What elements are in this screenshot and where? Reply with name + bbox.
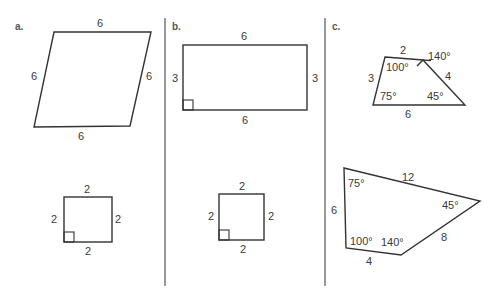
side-label: 2 <box>268 211 274 222</box>
side-label: 6 <box>242 115 248 126</box>
angle-label: 75° <box>348 178 365 189</box>
side-label: 6 <box>97 18 103 29</box>
side-label: 2 <box>208 211 214 222</box>
side-label: 3 <box>368 73 374 84</box>
side-label: 2 <box>239 181 245 192</box>
side-label: 3 <box>312 73 318 84</box>
side-label: 2 <box>51 214 57 225</box>
side-label: 6 <box>331 205 337 216</box>
side-label: 2 <box>240 244 246 255</box>
exterior-angle-tick <box>417 60 423 66</box>
panel-label-c: c. <box>332 22 340 32</box>
angle-label: 100° <box>350 236 373 247</box>
angle-label: 140° <box>428 51 451 62</box>
side-label: 6 <box>31 71 37 82</box>
angle-label: 75° <box>380 91 397 102</box>
diagram-canvas <box>0 0 500 302</box>
side-label: 2 <box>115 214 121 225</box>
angle-label: 100° <box>386 62 409 73</box>
parallelogram-shape <box>34 32 151 127</box>
side-label: 4 <box>445 71 451 82</box>
right-angle-marker-b <box>219 230 229 240</box>
rectangle-shape <box>183 45 307 110</box>
right-angle-marker-rect <box>183 100 193 110</box>
side-label: 6 <box>241 31 247 42</box>
side-label: 3 <box>172 73 178 84</box>
side-label: 6 <box>405 109 411 120</box>
angle-label: 140° <box>381 237 404 248</box>
side-label: 2 <box>85 246 91 257</box>
side-label: 4 <box>366 256 372 267</box>
square-a-shape <box>64 197 112 242</box>
panel-label-b: b. <box>172 22 181 32</box>
side-label: 6 <box>78 131 84 142</box>
side-label: 2 <box>400 45 406 56</box>
right-angle-marker-a <box>64 232 74 242</box>
angle-label: 45° <box>427 91 444 102</box>
side-label: 8 <box>441 232 447 243</box>
side-label: 2 <box>84 184 90 195</box>
angle-label: 45° <box>442 200 459 211</box>
square-b-shape <box>219 194 264 240</box>
side-label: 6 <box>146 71 152 82</box>
panel-label-a: a. <box>15 22 23 32</box>
side-label: 12 <box>402 172 414 183</box>
